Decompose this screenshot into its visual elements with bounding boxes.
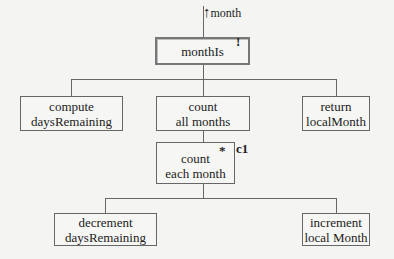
module-line1: compute: [21, 99, 122, 114]
connector-to-loop: [203, 131, 204, 142]
root-marker: !: [236, 34, 240, 50]
module-decrement-days-remaining[interactable]: decrement daysRemaining: [54, 213, 157, 246]
loop-marker: *: [219, 143, 226, 159]
connector-to-compute: [71, 79, 72, 96]
module-line1: increment: [303, 215, 369, 230]
input-flow-text: month: [211, 6, 242, 20]
module-line1: count: [157, 99, 249, 114]
module-line2: daysRemaining: [55, 230, 156, 245]
module-compute-days-remaining[interactable]: compute daysRemaining: [20, 96, 123, 131]
connector-level2-bus: [105, 198, 336, 199]
up-arrow-icon: ↑: [203, 4, 211, 20]
module-increment-local-month[interactable]: increment local Month: [302, 213, 370, 246]
module-count-all-months[interactable]: count all months: [156, 96, 250, 131]
connector-to-return: [336, 79, 337, 96]
module-line1: decrement: [55, 215, 156, 230]
connector-root-down: [203, 65, 204, 79]
module-line2: daysRemaining: [21, 114, 122, 129]
connector-loop-down: [203, 184, 204, 198]
input-flow-label: ↑month: [203, 5, 241, 20]
loop-condition-label: c1: [236, 141, 248, 157]
connector-to-decrement: [105, 198, 106, 213]
connector-to-count-all: [203, 79, 204, 96]
module-line1: return: [303, 99, 369, 114]
root-module-label: monthIs: [157, 44, 248, 59]
module-line2: all months: [157, 114, 249, 129]
connector-to-increment: [336, 198, 337, 213]
module-line2: localMonth: [303, 114, 369, 129]
module-return-local-month[interactable]: return localMonth: [302, 96, 370, 131]
module-line2: local Month: [303, 230, 369, 245]
module-line2: each month: [157, 166, 234, 181]
